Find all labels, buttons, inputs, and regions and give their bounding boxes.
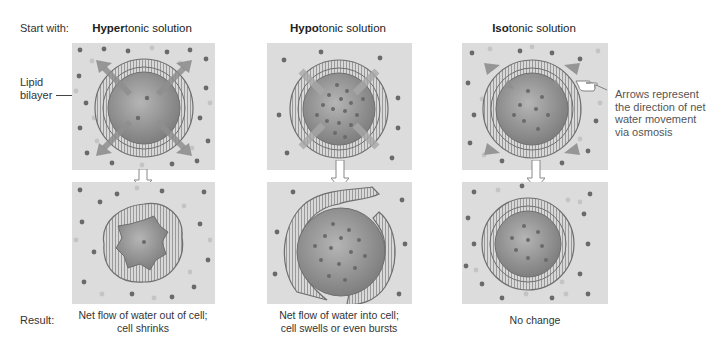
hypotonic-result-panel [267, 182, 412, 304]
isotonic-result-panel [462, 182, 608, 304]
arrow-annotation: Arrows represent the direction of net wa… [615, 88, 706, 138]
result-line1: No change [440, 314, 630, 327]
result-line2: cell swells or even bursts [244, 322, 434, 335]
title-bold: Hyper [92, 22, 125, 34]
isotonic-result-text: No change [440, 314, 630, 327]
title-rest: tonic solution [319, 22, 386, 34]
hypotonic-start-panel [267, 43, 412, 170]
column-title-isotonic: Isotonic solution [459, 22, 609, 34]
hypotonic-result-text: Net flow of water into cell; cell swells… [244, 309, 434, 335]
title-bold: Iso [492, 22, 509, 34]
pointing-hand-icon [574, 76, 608, 96]
title-rest: tonic solution [125, 22, 192, 34]
result-line2: cell shrinks [48, 322, 238, 335]
column-title-hypotonic: Hypotonic solution [263, 22, 413, 34]
lipid-bilayer-label-line2: bilayer [20, 89, 52, 102]
annotation-line2: the direction of net [615, 101, 706, 114]
hypertonic-result-text: Net flow of water out of cell; cell shri… [48, 309, 238, 335]
title-bold: Hypo [290, 22, 319, 34]
annotation-line1: Arrows represent [615, 88, 706, 101]
annotation-line3: water movement [615, 113, 706, 126]
title-rest: tonic solution [509, 22, 576, 34]
hypertonic-result-panel [72, 182, 215, 304]
result-line1: Net flow of water out of cell; [48, 309, 238, 322]
hypertonic-start-panel [72, 43, 215, 170]
lipid-bilayer-label-line1: Lipid [20, 76, 52, 89]
result-line1: Net flow of water into cell; [244, 309, 434, 322]
column-title-hypertonic: Hypertonic solution [67, 22, 217, 34]
lipid-bilayer-label: Lipid bilayer [20, 76, 52, 102]
isotonic-start-panel [462, 43, 608, 170]
annotation-line4: via osmosis [615, 126, 706, 139]
start-with-label: Start with: [20, 22, 69, 34]
